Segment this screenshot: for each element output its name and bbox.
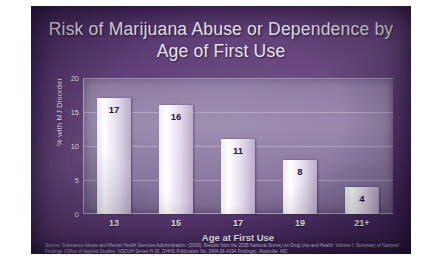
bar: 8: [283, 160, 317, 214]
x-tick-label: 13: [83, 218, 145, 228]
x-tick-label: 15: [145, 218, 207, 228]
y-tick-label: 15: [71, 108, 79, 117]
source-note: Source: Substance Abuse and Mental Healt…: [45, 243, 401, 254]
bar: 11: [221, 139, 255, 214]
x-tick-label: 17: [207, 218, 269, 228]
bar-value-label: 16: [159, 111, 193, 122]
y-tick-label: 20: [71, 74, 79, 83]
chart-title: Risk of Marijuana Abuse or Dependence by…: [45, 18, 397, 62]
y-tick-label: 0: [75, 210, 79, 219]
bar-value-label: 8: [283, 166, 317, 177]
bar: 16: [159, 105, 193, 214]
y-tick-label: 10: [71, 142, 79, 151]
x-axis-label: Age at First Use: [83, 232, 393, 243]
y-tick-label: 5: [75, 176, 79, 185]
bar-value-label: 11: [221, 145, 255, 156]
slide-frame: Risk of Marijuana Abuse or Dependence by…: [31, 6, 411, 254]
bar: 4: [345, 187, 379, 214]
slide-screenshot: Risk of Marijuana Abuse or Dependence by…: [0, 0, 441, 262]
bar-series: 17161184: [83, 78, 393, 214]
x-tick-label: 21+: [331, 218, 393, 228]
x-tick-label: 19: [269, 218, 331, 228]
bar-rect: [97, 98, 131, 214]
bar: 17: [97, 98, 131, 214]
bar-value-label: 4: [345, 193, 379, 204]
plot-area: 05101520 17161184: [83, 78, 393, 214]
y-axis-label: % with MJ Disorder: [55, 78, 64, 146]
bar-value-label: 17: [97, 104, 131, 115]
